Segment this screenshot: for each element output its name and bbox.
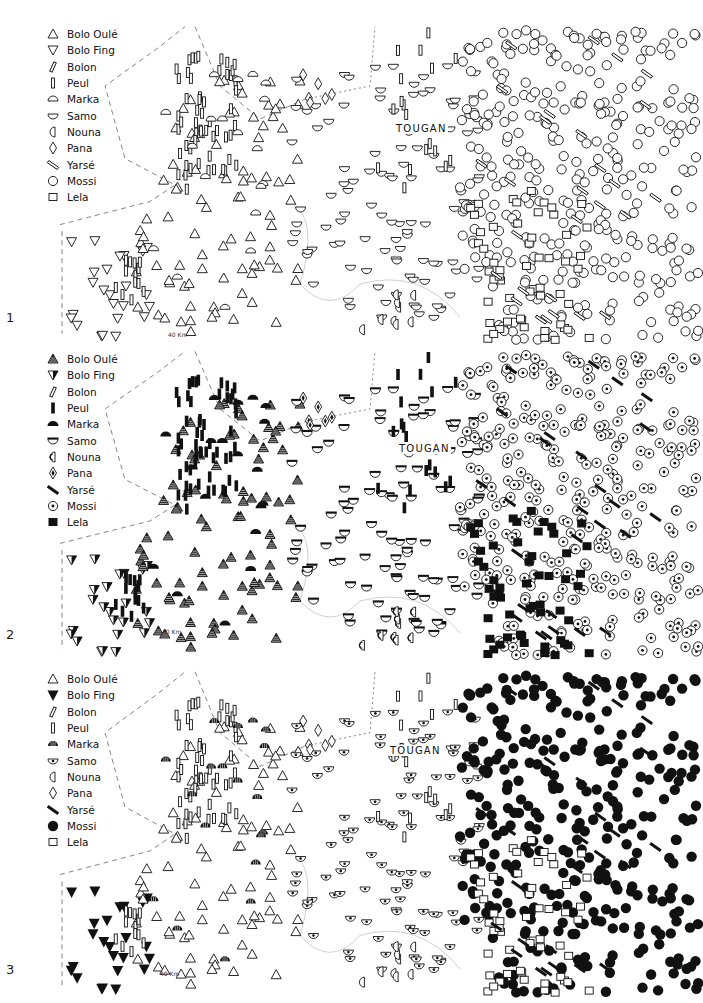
legend-item-nouna: Nouna [46, 769, 118, 785]
legend-item-mossi: Mossi [46, 173, 118, 189]
tri-up-hatched-symbol-icon [46, 352, 60, 366]
town-label-tougan: TOUGAN [389, 745, 442, 756]
legend-item-yarse: Yarsé [46, 801, 118, 817]
legend-label: Bolon [67, 386, 97, 398]
tri-up-open-symbol-icon [46, 27, 60, 41]
legend-item-yarse: Yarsé [46, 156, 118, 172]
slash-open-symbol-icon [46, 60, 60, 74]
legend-label: Bolo Fing [67, 689, 115, 701]
legend-label: Samo [67, 110, 97, 122]
legend-label: Mossi [67, 500, 96, 512]
legend-item-mossi: Mossi [46, 818, 118, 834]
legend-label: Bolo Oulé [67, 673, 118, 685]
map-panel-3: 3Bolo OuléBolo FingBolonPeulMarkaSamoNou… [0, 665, 703, 1003]
legend-item-lela: Lela [46, 189, 118, 205]
legend-label: Peul [67, 77, 89, 89]
legend-item-bolo-oule: Bolo Oulé [46, 351, 118, 367]
dome-striped-symbol-icon [46, 737, 60, 751]
slash-open-symbol-icon [46, 705, 60, 719]
legend-item-marka: Marka [46, 91, 118, 107]
tri-down-half-symbol-icon [46, 368, 60, 382]
legend-item-pana: Pana [46, 465, 118, 481]
bowl-lidded-symbol-icon [46, 434, 60, 448]
legend-label: Lela [67, 516, 88, 528]
legend-item-pana: Pana [46, 140, 118, 156]
legend-label: Marka [67, 738, 99, 750]
legend-label: Nouna [67, 126, 101, 138]
map-panel-1: 1Bolo OuléBolo FingBolonPeulMarkaSamoNou… [0, 20, 703, 350]
legend-item-peul: Peul [46, 720, 118, 736]
legend-label: Bolon [67, 706, 97, 718]
map-legend: Bolo OuléBolo FingBolonPeulMarkaSamoNoun… [46, 351, 118, 530]
bowl-eye-symbol-icon [46, 754, 60, 768]
legend-label: Samo [67, 435, 97, 447]
scale-label: 40 Km [168, 331, 187, 338]
map-legend: Bolo OuléBolo FingBolonPeulMarkaSamoNoun… [46, 671, 118, 850]
legend-label: Pana [67, 467, 92, 479]
legend-label: Yarsé [67, 804, 95, 816]
legend-label: Bolon [67, 61, 97, 73]
legend-item-samo: Samo [46, 107, 118, 123]
legend-item-marka: Marka [46, 736, 118, 752]
legend-label: Lela [67, 191, 88, 203]
legend-item-bolon: Bolon [46, 59, 118, 75]
yarse-open-symbol-icon [46, 158, 60, 172]
legend-item-pana: Pana [46, 785, 118, 801]
legend-item-bolo-fing: Bolo Fing [46, 687, 118, 703]
legend-label: Mossi [67, 175, 96, 187]
legend-label: Mossi [67, 820, 96, 832]
legend-label: Samo [67, 755, 97, 767]
panel-number: 2 [6, 627, 14, 642]
map-legend: Bolo OuléBolo FingBolonPeulMarkaSamoNoun… [46, 26, 118, 205]
legend-item-yarse: Yarsé [46, 481, 118, 497]
tri-up-open-symbol-icon [46, 672, 60, 686]
circle-open-symbol-icon [46, 174, 60, 188]
bowl-open-symbol-icon [46, 109, 60, 123]
tri-down-open-symbol-icon [46, 43, 60, 57]
legend-label: Nouna [67, 451, 101, 463]
town-label-tougan: TOUGAN [395, 123, 448, 134]
dome-open-symbol-icon [46, 92, 60, 106]
scale-label: 40 Km [162, 628, 181, 635]
panel-number: 3 [6, 962, 14, 977]
legend-item-marka: Marka [46, 416, 118, 432]
diamond-open-symbol-icon [46, 141, 60, 155]
slash-open-symbol-icon [46, 385, 60, 399]
legend-label: Bolo Oulé [67, 353, 118, 365]
nouna-open-symbol-icon [46, 125, 60, 139]
yarse-filled-symbol-icon [46, 803, 60, 817]
diamond-dot-symbol-icon [46, 466, 60, 480]
square-open-symbol-icon [46, 835, 60, 849]
legend-label: Pana [67, 787, 92, 799]
map-panel-2: 2Bolo OuléBolo FingBolonPeulMarkaSamoNou… [0, 345, 703, 665]
circle-dot-symbol-icon [46, 499, 60, 513]
legend-item-nouna: Nouna [46, 124, 118, 140]
square-open-symbol-icon [46, 190, 60, 204]
yarse-filled-symbol-icon [46, 483, 60, 497]
legend-label: Yarsé [67, 484, 95, 496]
legend-item-bolo-fing: Bolo Fing [46, 42, 118, 58]
legend-label: Marka [67, 418, 99, 430]
legend-item-bolon: Bolon [46, 384, 118, 400]
bar-open-symbol-icon [46, 76, 60, 90]
panel-number: 1 [6, 310, 14, 325]
legend-label: Bolo Oulé [67, 28, 118, 40]
legend-item-peul: Peul [46, 75, 118, 91]
legend-label: Yarsé [67, 159, 95, 171]
legend-label: Peul [67, 722, 89, 734]
town-label-tougan: TOUGAN [398, 443, 451, 454]
legend-item-bolon: Bolon [46, 704, 118, 720]
bar-open-symbol-icon [46, 721, 60, 735]
legend-item-lela: Lela [46, 514, 118, 530]
circle-filled-symbol-icon [46, 819, 60, 833]
legend-item-bolo-fing: Bolo Fing [46, 367, 118, 383]
nouna-open-symbol-icon [46, 770, 60, 784]
square-filled-symbol-icon [46, 515, 60, 529]
nouna-striped-symbol-icon [46, 450, 60, 464]
legend-label: Peul [67, 402, 89, 414]
legend-item-mossi: Mossi [46, 498, 118, 514]
scale-label: 40 Km [160, 970, 179, 977]
legend-item-bolo-oule: Bolo Oulé [46, 671, 118, 687]
legend-item-samo: Samo [46, 752, 118, 768]
diamond-open-symbol-icon [46, 786, 60, 800]
